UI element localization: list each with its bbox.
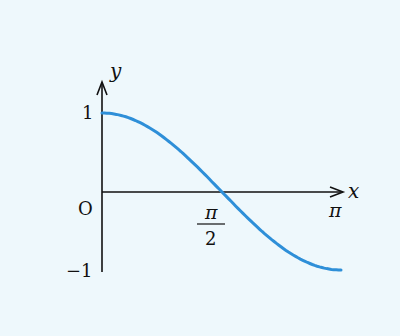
y-axis-label: y xyxy=(109,59,122,83)
x-tick-pi-half-numerator: π xyxy=(204,201,218,223)
origin-label: O xyxy=(78,198,93,219)
x-axis-label: x xyxy=(348,179,359,203)
cosine-chart: y 1 O −1 π 2 π x xyxy=(0,0,400,336)
y-tick-1: 1 xyxy=(82,102,93,123)
x-tick-pi: π xyxy=(328,199,342,221)
x-tick-pi-half-denominator: 2 xyxy=(205,228,216,249)
y-tick-minus-1: −1 xyxy=(66,260,93,281)
